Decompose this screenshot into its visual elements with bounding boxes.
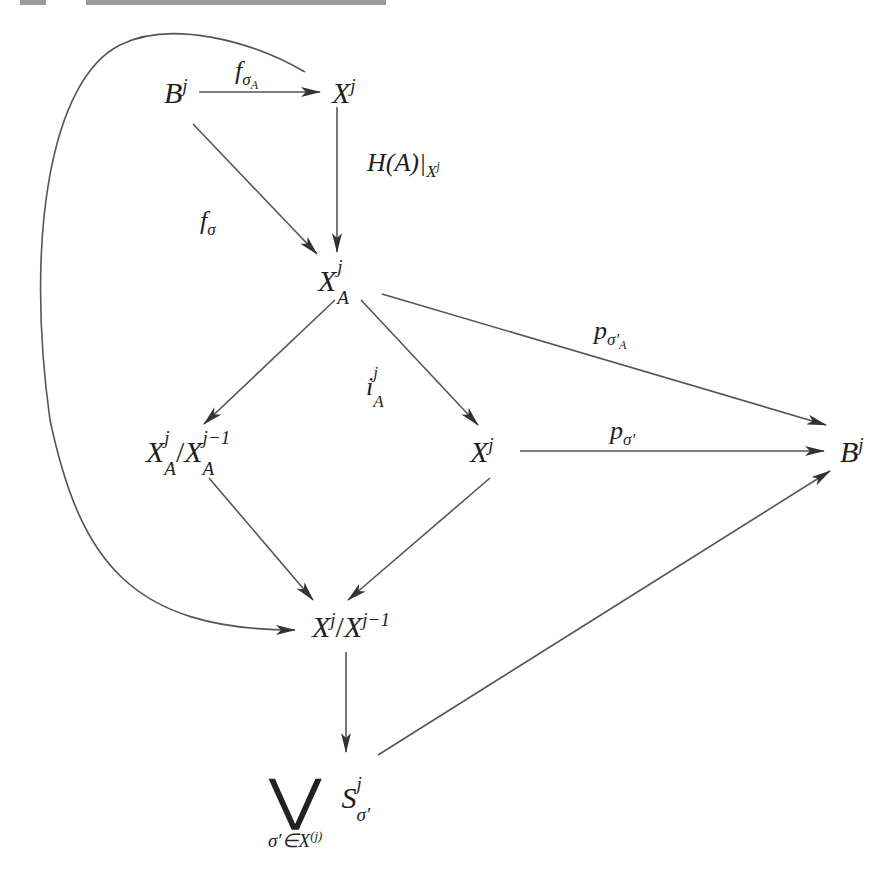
arrow-wedge-to-B bbox=[378, 471, 830, 755]
node-base: X bbox=[184, 435, 202, 468]
label-H-restrict: H(A)|Xj bbox=[367, 150, 440, 176]
node-sup: j bbox=[350, 75, 355, 96]
label-text: H(A)| bbox=[367, 148, 426, 177]
node-wedge-sum: ⋁ σ′∈X(j) Sjσ′ bbox=[268, 772, 370, 852]
node-X-mid: Xj bbox=[470, 437, 494, 467]
node-sup: j bbox=[858, 434, 863, 455]
node-sub: A bbox=[337, 288, 349, 307]
node-sub: A bbox=[203, 459, 231, 478]
label-sub: σ′ bbox=[623, 430, 635, 449]
wedge-summand: Sjσ′ bbox=[342, 782, 371, 820]
node-sub: A bbox=[164, 459, 176, 478]
label-base: p bbox=[610, 416, 623, 445]
node-base: S bbox=[342, 781, 357, 814]
label-p-sigma-prime: pσ′ bbox=[610, 418, 635, 444]
label-sub: σ bbox=[242, 70, 250, 89]
label-sub: X bbox=[426, 162, 436, 181]
label-f-sigma-A: fσA bbox=[235, 58, 258, 86]
node-base: X bbox=[146, 435, 164, 468]
node-X-quotient: Xj/Xj−1 bbox=[312, 612, 390, 642]
node-base: X bbox=[344, 610, 362, 643]
arrow-to-XA-quotient bbox=[204, 300, 335, 424]
diagram-arrows bbox=[0, 0, 892, 876]
node-sup: j bbox=[337, 257, 349, 276]
label-sub: A bbox=[373, 393, 383, 410]
label-f-sigma: fσ bbox=[200, 208, 216, 234]
node-base: X bbox=[332, 76, 350, 109]
label-sup: j bbox=[373, 364, 383, 381]
arrow-X-mid-to-X-quotient bbox=[348, 478, 490, 600]
arrow-p-sigma-prime-A bbox=[382, 294, 826, 425]
label-subsub: A bbox=[619, 339, 626, 353]
node-base: B bbox=[840, 435, 858, 468]
wedge-operator-stack: ⋁ σ′∈X(j) bbox=[268, 772, 322, 852]
quotient-slash: / bbox=[336, 610, 344, 643]
node-base: B bbox=[164, 76, 182, 109]
node-sup: j bbox=[357, 774, 371, 793]
node-XA-quotient: XjA/Xj−1A bbox=[146, 436, 230, 474]
node-sup: j−1 bbox=[362, 609, 390, 630]
node-B-top: Bj bbox=[164, 78, 188, 108]
node-X-top: Xj bbox=[332, 78, 356, 108]
label-subsup: j bbox=[437, 160, 440, 174]
node-sup: j−1 bbox=[203, 428, 231, 447]
node-B-right: Bj bbox=[840, 437, 864, 467]
node-sup: j bbox=[488, 434, 493, 455]
label-sub: σ bbox=[207, 220, 215, 239]
label-p-sigma-prime-A: pσ′A bbox=[594, 318, 626, 346]
node-sup: j bbox=[164, 428, 176, 447]
arrow-curved-X-to-X-quotient bbox=[41, 34, 305, 630]
node-base: X bbox=[318, 264, 336, 297]
node-sub: σ′ bbox=[357, 805, 371, 824]
node-X-A: XjA bbox=[318, 265, 349, 303]
label-sub: σ′ bbox=[607, 330, 619, 349]
label-subsub: A bbox=[251, 79, 258, 93]
node-base: X bbox=[312, 610, 330, 643]
big-wedge-icon: ⋁ bbox=[264, 772, 327, 828]
label-base: p bbox=[594, 316, 607, 345]
node-base: X bbox=[470, 435, 488, 468]
wedge-index-text: σ′∈X bbox=[268, 830, 310, 851]
arrow-XA-quotient-to-X-quotient bbox=[209, 478, 313, 600]
node-sup: j bbox=[182, 75, 187, 96]
label-i-A: ijA bbox=[366, 372, 384, 406]
